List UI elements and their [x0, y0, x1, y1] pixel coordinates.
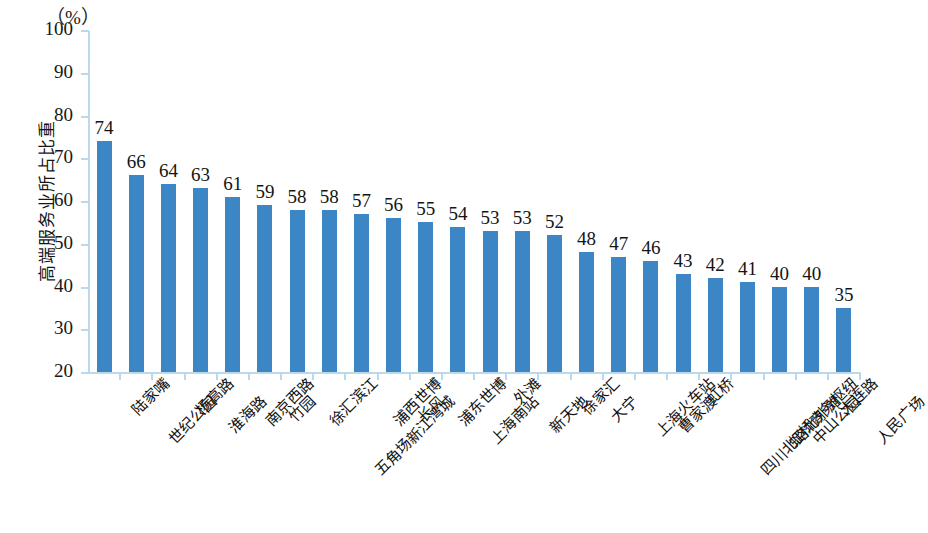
bar: 74 — [97, 141, 112, 372]
y-axis-tick-label: 80 — [54, 104, 73, 126]
bar-value-label: 58 — [288, 187, 307, 207]
bar-value-label: 63 — [191, 165, 210, 185]
y-axis-tick-label: 50 — [54, 232, 73, 254]
y-axis-tick-label: 40 — [54, 275, 73, 297]
bar-value-label: 43 — [674, 251, 693, 271]
bar: 35 — [836, 308, 851, 372]
bar: 58 — [290, 210, 305, 372]
x-axis-category-label: 大宁 — [607, 393, 640, 426]
x-axis-category-label: 杨高路 — [194, 375, 237, 418]
x-axis-category-label: 陆家嘴 — [129, 375, 172, 418]
bar-value-label: 40 — [770, 264, 789, 284]
bar: 52 — [547, 235, 562, 372]
bar-value-label: 35 — [834, 285, 853, 305]
bar: 48 — [579, 252, 594, 372]
y-axis-tick-label: 100 — [45, 18, 74, 40]
bar-value-label: 56 — [384, 195, 403, 215]
y-axis-tick-label: 20 — [54, 360, 73, 382]
bar: 66 — [129, 175, 144, 372]
x-axis-category-labels: 陆家嘴世纪公园杨高路淮海路南京西路竹园徐汇滨江五角场新江湾城浦西世博长风浦东世博… — [88, 373, 878, 533]
bar: 43 — [676, 274, 691, 372]
y-axis-tick-label: 70 — [54, 146, 73, 168]
bar-value-label: 41 — [738, 259, 757, 279]
bar: 57 — [354, 214, 369, 372]
bar: 46 — [643, 261, 658, 372]
bar: 55 — [418, 222, 433, 372]
y-axis-tick: 50 — [81, 244, 89, 246]
y-axis-tick: 60 — [81, 201, 89, 203]
plot-area: 1009080706050403020 74666463615958585756… — [88, 31, 860, 373]
bar-value-label: 57 — [352, 191, 371, 211]
bar-value-label: 58 — [320, 187, 339, 207]
bar-value-label: 64 — [159, 161, 178, 181]
bar-value-label: 53 — [481, 208, 500, 228]
bar: 40 — [804, 287, 819, 373]
y-axis-tick: 90 — [81, 73, 89, 75]
y-axis-title: 高端服务业所占比重 — [39, 76, 56, 326]
y-axis-tick-label: 90 — [54, 61, 73, 83]
bar-value-label: 40 — [802, 264, 821, 284]
bar-value-label: 59 — [255, 182, 274, 202]
bar: 47 — [611, 257, 626, 372]
bar-value-label: 52 — [545, 212, 564, 232]
bar: 40 — [772, 287, 787, 373]
bar: 63 — [193, 188, 208, 372]
bar: 61 — [225, 197, 240, 372]
bar-value-label: 74 — [95, 118, 114, 138]
bar: 58 — [322, 210, 337, 372]
y-axis-tick: 80 — [81, 116, 89, 118]
y-axis-tick: 100 — [81, 30, 89, 32]
y-axis-tick-label: 30 — [54, 317, 73, 339]
bar-value-label: 48 — [577, 229, 596, 249]
bar-value-label: 47 — [609, 234, 628, 254]
y-axis-tick-label: 60 — [54, 189, 73, 211]
bar: 64 — [161, 184, 176, 372]
y-axis-tick: 30 — [81, 329, 89, 331]
bar: 53 — [483, 231, 498, 372]
x-axis-category-label: 徐汇滨江 — [327, 375, 381, 429]
bar-value-label: 66 — [127, 152, 146, 172]
y-axis-tick: 40 — [81, 287, 89, 289]
bar-value-label: 46 — [641, 238, 660, 258]
bar: 59 — [257, 205, 272, 372]
bar-value-label: 53 — [513, 208, 532, 228]
bar-value-label: 42 — [706, 255, 725, 275]
bar: 56 — [386, 218, 401, 372]
bar-value-label: 61 — [223, 174, 242, 194]
x-axis-category-label: 人民广场 — [873, 393, 927, 447]
bar-value-label: 55 — [416, 199, 435, 219]
bar: 54 — [450, 227, 465, 372]
bar: 42 — [708, 278, 723, 372]
bar: 53 — [515, 231, 530, 372]
y-axis-tick: 70 — [81, 158, 89, 160]
bar-value-label: 54 — [448, 204, 467, 224]
bar: 41 — [740, 282, 755, 372]
